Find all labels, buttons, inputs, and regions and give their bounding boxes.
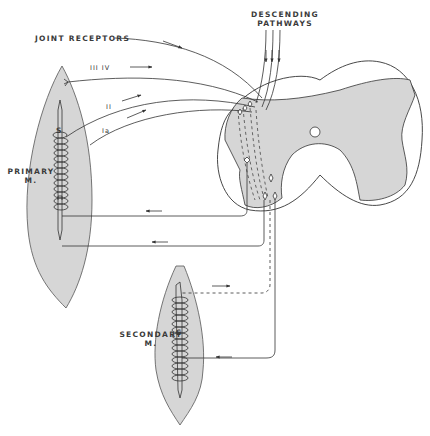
spinal-cord-section [217, 61, 422, 211]
label-secondary-line1: SECONDARY [118, 330, 184, 339]
label-fiber-ia: Ia [102, 127, 110, 136]
label-descending-line2: PATHWAYS [240, 19, 330, 28]
label-descending-pathways: DESCENDING PATHWAYS [240, 10, 330, 28]
fiber-iii-iv [68, 78, 258, 102]
label-primary-line1: PRIMARY [6, 167, 56, 176]
gamma-dashed [182, 200, 270, 293]
label-secondary-line2: M. [118, 339, 184, 348]
label-joint-receptors: JOINT RECEPTORS [35, 34, 130, 43]
label-fiber-iii-iv: III IV [90, 64, 110, 73]
neural-pathway-diagram [0, 0, 430, 436]
label-spindle-primary: S [56, 126, 63, 135]
label-primary-line2: M. [6, 176, 56, 185]
label-secondary-muscle: SECONDARY M. [118, 330, 184, 348]
label-primary-muscle: PRIMARY M. [6, 167, 56, 185]
label-descending-line1: DESCENDING [240, 10, 330, 19]
joint-receptor-fiber [115, 38, 262, 98]
label-fiber-ii: II [106, 103, 112, 112]
label-spindle-secondary: S [176, 328, 183, 337]
